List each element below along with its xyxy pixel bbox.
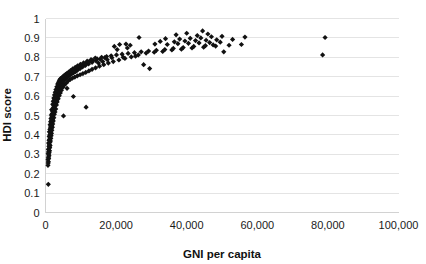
data-point [83, 105, 88, 110]
x-tick-label: 20,000 [99, 219, 133, 231]
data-point [117, 42, 122, 47]
data-points-group [45, 28, 327, 187]
y-tick-label: 0.3 [24, 148, 39, 160]
x-tick-label: 40,000 [170, 219, 204, 231]
data-point [184, 31, 189, 36]
data-point [322, 35, 327, 40]
y-tick-label: 1 [33, 13, 39, 25]
data-point [177, 36, 182, 41]
data-point [174, 32, 179, 37]
data-point [239, 42, 244, 47]
x-tick-label: 60,000 [240, 219, 274, 231]
data-point [200, 28, 205, 33]
y-tick-label: 0.2 [24, 168, 39, 180]
y-tick-label: 0.1 [24, 187, 39, 199]
x-axis-title: GNI per capita [183, 248, 262, 260]
data-point [61, 113, 66, 118]
data-point [158, 39, 163, 44]
y-axis-tick-labels: 00.10.20.30.40.50.60.70.80.91 [24, 13, 39, 219]
y-axis-title: HDI score [1, 88, 13, 142]
data-point [165, 42, 170, 47]
data-point [147, 66, 152, 71]
data-point [114, 52, 119, 57]
x-tick-label: 80,000 [311, 219, 345, 231]
y-tick-label: 0.9 [24, 32, 39, 44]
chart-canvas: 00.10.20.30.40.50.60.70.80.91 020,00040,… [0, 0, 426, 264]
data-point [163, 36, 168, 41]
x-tick-label: 0 [42, 219, 48, 231]
data-point [205, 31, 210, 36]
y-tick-label: 0.5 [24, 110, 39, 122]
data-point [221, 49, 226, 54]
data-point [141, 62, 146, 67]
x-axis-tick-labels: 020,00040,00060,00080,000100,000 [42, 219, 418, 231]
data-point [209, 34, 214, 39]
data-point [129, 54, 134, 59]
y-tick-label: 0 [33, 207, 39, 219]
data-point [71, 94, 76, 99]
y-tick-label: 0.7 [24, 71, 39, 83]
data-point [226, 43, 231, 48]
data-point [46, 182, 51, 187]
gridlines-group [46, 19, 399, 213]
data-point [320, 52, 325, 57]
data-point [152, 42, 157, 47]
data-point [136, 35, 141, 40]
data-point [116, 57, 121, 62]
data-point [126, 51, 131, 56]
scatter-chart: 00.10.20.30.40.50.60.70.80.91 020,00040,… [0, 0, 426, 264]
y-tick-label: 0.6 [24, 90, 39, 102]
data-point [188, 36, 193, 41]
x-tick-label: 100,000 [379, 219, 419, 231]
y-tick-label: 0.4 [24, 129, 39, 141]
y-tick-label: 0.8 [24, 51, 39, 63]
data-point [242, 35, 247, 40]
